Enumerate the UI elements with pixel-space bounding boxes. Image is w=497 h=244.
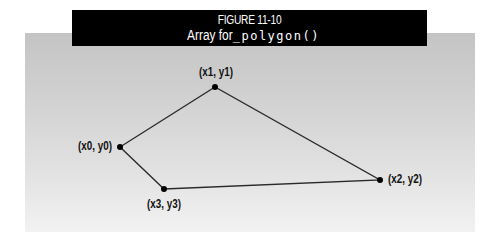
polygon-diagram — [0, 0, 497, 244]
polygon-outline — [120, 87, 380, 189]
vertex-label-x3-y3: (x3, y3) — [147, 197, 181, 211]
vertex-label-x1-y1: (x1, y1) — [199, 65, 233, 79]
vertex-points — [117, 84, 383, 192]
vertex-label-x0-y0: (x0, y0) — [78, 139, 112, 153]
vertex-label-x2-y2: (x2, y2) — [388, 172, 422, 186]
vertex-point — [117, 144, 123, 150]
vertex-point — [377, 177, 383, 183]
vertex-point — [161, 186, 167, 192]
vertex-point — [212, 84, 218, 90]
